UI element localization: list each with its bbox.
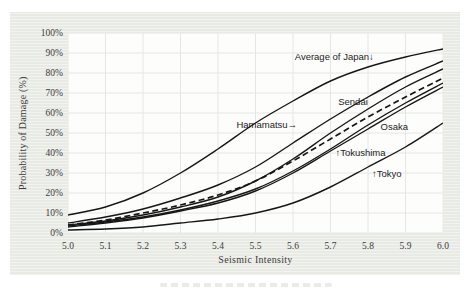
curve-label-sendai: Sendai [338,96,368,107]
x-axis-title: Seismic Intensity [68,254,443,265]
y-tick-label: 10% [10,207,63,219]
caption-remnant [160,283,332,287]
y-tick-label: 70% [10,87,63,99]
fragility-curves-chart: Average of Japan↓SendaiHamamatsu→Osaka↑T… [68,33,443,233]
y-tick-label: 0% [10,227,63,239]
plot-area: Average of Japan↓SendaiHamamatsu→Osaka↑T… [68,33,443,233]
y-tick-label: 20% [10,187,63,199]
curve-label-tokyo: ↑Tokyo [372,168,402,179]
x-tick-label: 5.4 [203,240,233,252]
curve-label-average-of-japan: Average of Japan↓ [295,51,374,62]
y-tick-label: 40% [10,147,63,159]
x-tick-label: 5.9 [391,240,421,252]
curve-label-hamamatsu: Hamamatsu→ [236,119,297,130]
y-tick-label: 100% [10,27,63,39]
x-tick-label: 5.6 [278,240,308,252]
x-tick-label: 6.0 [428,240,458,252]
y-tick-label: 90% [10,47,63,59]
x-tick-label: 5.2 [128,240,158,252]
x-tick-label: 5.1 [91,240,121,252]
y-tick-label: 30% [10,167,63,179]
figure: Probability of Damage (%) Seismic Intens… [0,0,476,290]
x-tick-label: 5.5 [241,240,271,252]
curve-label-tokushima: ↑Tokushima [335,147,386,158]
y-tick-label: 60% [10,107,63,119]
y-tick-label: 80% [10,67,63,79]
x-tick-label: 5.3 [166,240,196,252]
y-tick-label: 50% [10,127,63,139]
x-tick-label: 5.8 [353,240,383,252]
x-tick-label: 5.0 [53,240,83,252]
curve-label-osaka: Osaka [381,121,409,132]
chart-panel: Probability of Damage (%) Seismic Intens… [10,12,460,275]
x-tick-label: 5.7 [316,240,346,252]
